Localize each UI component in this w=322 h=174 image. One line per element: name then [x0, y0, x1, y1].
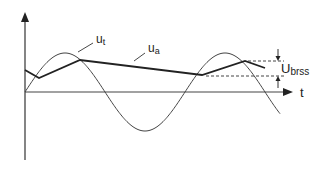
ut-label-sub: t	[103, 37, 106, 47]
ripple-diagram: t Ubrss ut ua	[0, 0, 322, 174]
ut-label-main: u	[96, 32, 103, 46]
ua-label-main: u	[148, 41, 155, 55]
ut-leader	[78, 43, 93, 52]
ua-curve	[25, 60, 265, 78]
ripple-label: Ubrss	[281, 61, 309, 77]
ua-leader	[134, 53, 145, 61]
ripple-arrow-top-head	[276, 56, 281, 61]
ut-label: ut	[96, 32, 106, 47]
y-axis-arrow	[21, 12, 29, 22]
ua-label: ua	[148, 41, 160, 56]
ua-label-sub: a	[155, 46, 160, 56]
t-axis-arrow	[283, 88, 293, 96]
ripple-label-sub: brss	[290, 66, 309, 77]
ripple-label-main: U	[281, 61, 290, 76]
ripple-arrow-bottom-head	[276, 76, 281, 81]
t-axis-label: t	[300, 85, 304, 100]
